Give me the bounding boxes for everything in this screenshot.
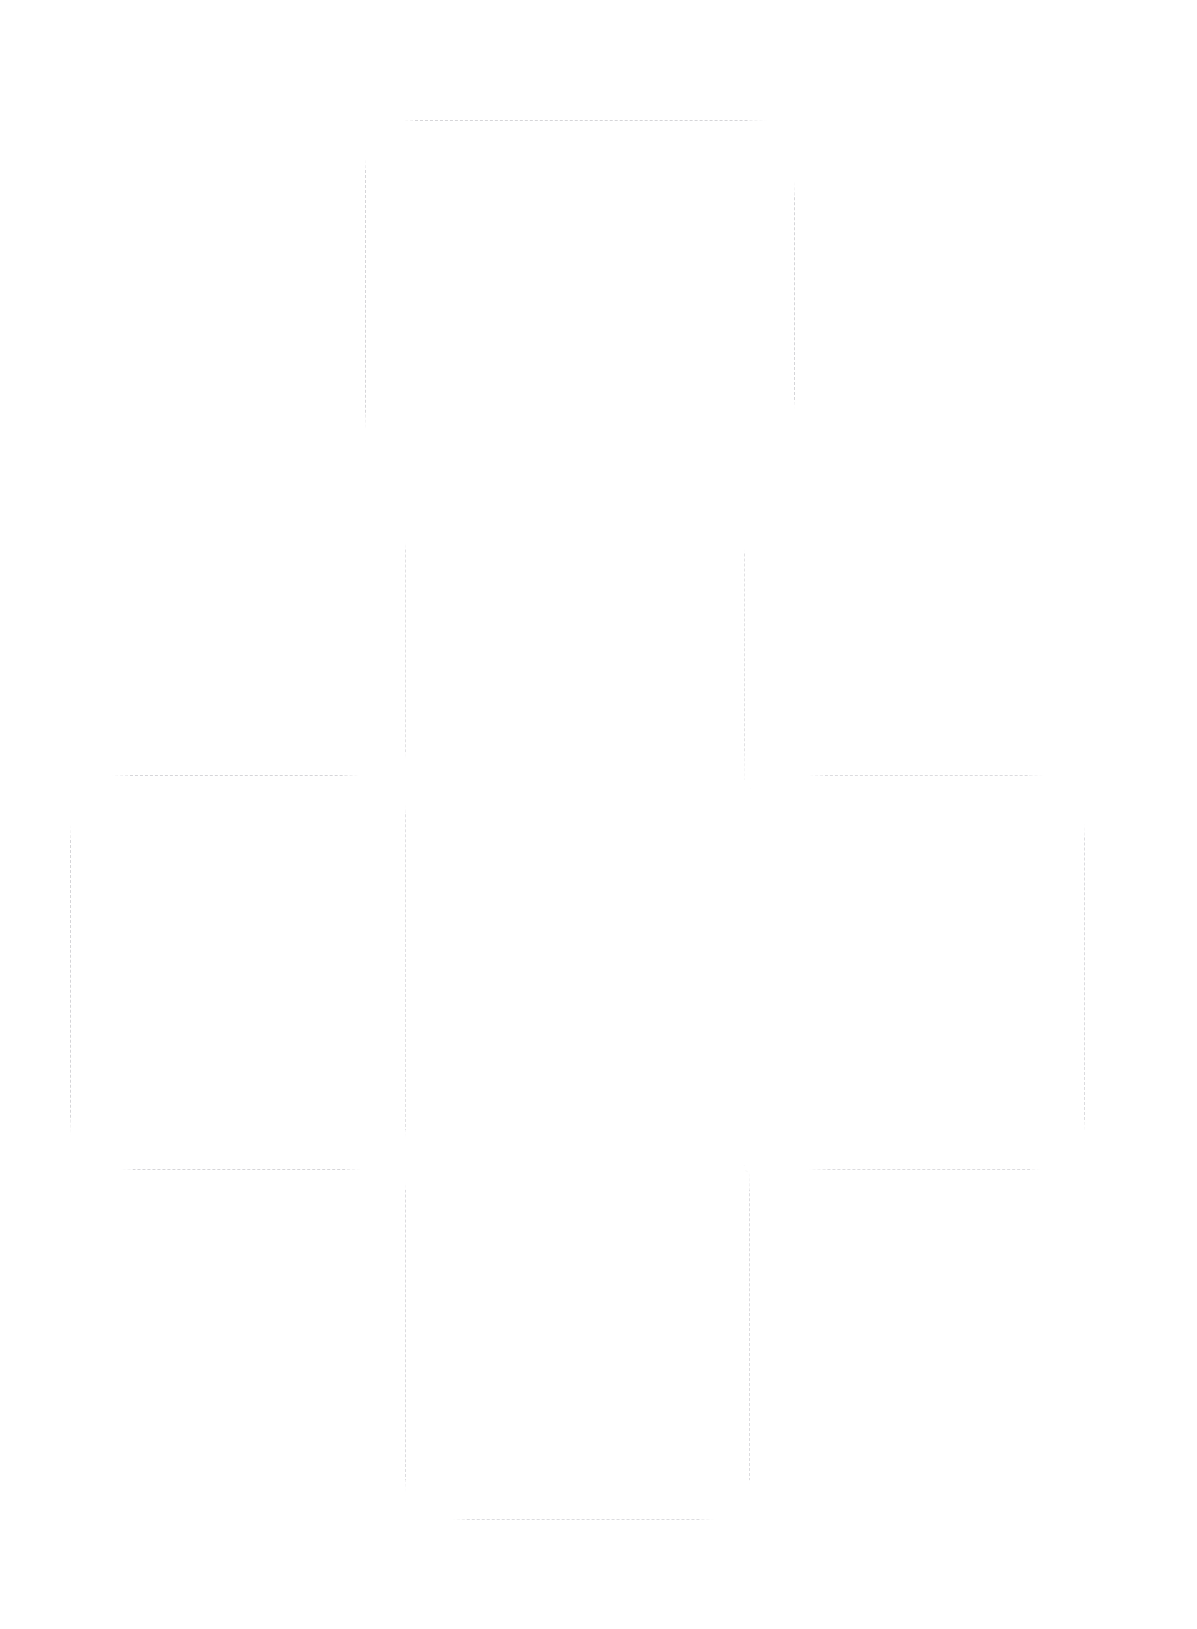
panel-bottom[interactable] (405, 1170, 750, 1520)
panel-right[interactable] (745, 775, 1085, 1170)
page-canvas (0, 0, 1197, 1629)
panel-center[interactable] (405, 520, 745, 1170)
panel-left[interactable] (70, 775, 415, 1170)
panel-top[interactable] (365, 120, 795, 460)
